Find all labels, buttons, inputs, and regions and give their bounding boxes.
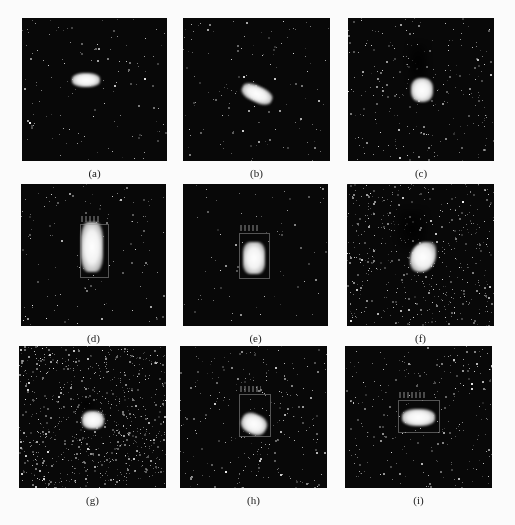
ship-target	[411, 78, 433, 102]
panel-i	[345, 346, 492, 488]
ship-target	[72, 73, 100, 87]
panel-caption-i: (i)	[389, 494, 449, 506]
detection-score-tag	[81, 216, 100, 222]
detection-score-tag	[399, 392, 427, 398]
speckle-noise	[22, 18, 167, 161]
detection-bounding-box	[239, 233, 270, 279]
panel-c	[348, 18, 494, 161]
panel-caption-d: (d)	[64, 332, 124, 344]
panel-caption-e: (e)	[226, 332, 286, 344]
panel-g	[19, 346, 166, 488]
panel-f	[347, 184, 494, 326]
detection-score-tag	[240, 386, 261, 392]
panel-b	[183, 18, 330, 161]
panel-a	[22, 18, 167, 161]
detection-bounding-box	[80, 224, 109, 278]
panel-d	[21, 184, 166, 326]
panel-h	[180, 346, 327, 488]
detection-bounding-box	[398, 400, 440, 433]
panel-caption-a: (a)	[65, 167, 125, 179]
detection-score-tag	[240, 225, 260, 231]
panel-caption-f: (f)	[391, 332, 451, 344]
panel-caption-b: (b)	[227, 167, 287, 179]
panel-caption-c: (c)	[391, 167, 451, 179]
detection-bounding-box	[239, 394, 271, 437]
panel-caption-g: (g)	[63, 494, 123, 506]
panel-e	[183, 184, 328, 326]
panel-caption-h: (h)	[224, 494, 284, 506]
target-shadow	[408, 43, 428, 83]
ship-target	[82, 411, 104, 429]
target-shadow	[77, 398, 95, 410]
